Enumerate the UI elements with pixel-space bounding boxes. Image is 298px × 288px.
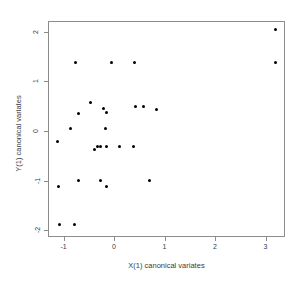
y-axis-tick-label: -1 — [34, 178, 41, 184]
y-axis-tick — [44, 181, 48, 182]
y-axis-tick — [44, 131, 48, 132]
y-axis-tick — [44, 230, 48, 231]
x-axis-tick-label: 2 — [213, 243, 217, 250]
x-axis-label: X(1) canonical variates — [48, 261, 285, 270]
x-axis-tick-label: 3 — [264, 243, 268, 250]
x-axis-tick — [165, 237, 166, 241]
x-axis-tick — [215, 237, 216, 241]
x-axis-tick-label: -1 — [60, 243, 66, 250]
scatter-plot-figure: -10123210-1-2 X(1) canonical variates Y(… — [0, 0, 298, 288]
y-axis-tick-label: 0 — [32, 129, 39, 133]
y-axis-tick-label: -2 — [34, 227, 41, 233]
y-axis-tick-label: 2 — [32, 30, 39, 34]
x-axis-tick-label: 1 — [163, 243, 167, 250]
y-axis-tick — [44, 32, 48, 33]
y-axis-tick — [44, 81, 48, 82]
x-axis-tick — [114, 237, 115, 241]
x-axis-tick — [64, 237, 65, 241]
y-axis-label: Y(1) canonical variates — [14, 34, 23, 234]
plot-area-frame — [48, 21, 285, 237]
x-axis-tick — [266, 237, 267, 241]
y-axis-tick-label: 1 — [32, 79, 39, 83]
x-axis-tick-label: 0 — [112, 243, 116, 250]
